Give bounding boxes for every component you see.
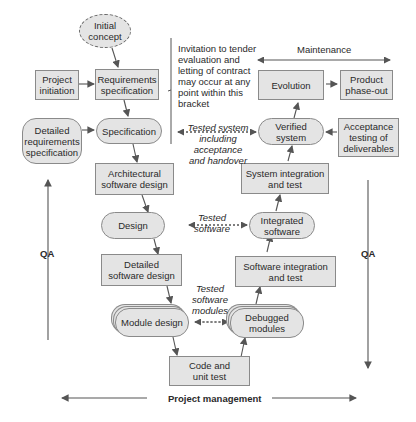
- evolution-label: Evolution: [271, 80, 310, 91]
- code-and-unit-test-label: Code and unit test: [189, 360, 230, 382]
- qa-right-label: QA: [361, 248, 375, 259]
- initial-concept-node: Initial concept: [79, 14, 131, 48]
- system-integration-label: System integration and test: [246, 168, 325, 190]
- project-management-label: Project management: [168, 393, 261, 404]
- qa-left-label: QA: [40, 248, 54, 259]
- product-phase-out-node: Product phase-out: [340, 70, 393, 100]
- verified-system-node: Verified system: [258, 118, 324, 145]
- specification-label: Specification: [102, 126, 156, 137]
- detailed-software-design-node: Detailed software design: [101, 254, 182, 286]
- acceptance-testing-node: Acceptance testing of deliverables: [338, 118, 399, 157]
- project-initiation-node: Project initiation: [35, 70, 79, 100]
- requirements-specification-node: Requirements specification: [95, 69, 159, 100]
- architectural-design-label: Architectural software design: [101, 168, 168, 190]
- architectural-design-node: Architectural software design: [95, 163, 174, 195]
- module-design-label: Module design: [121, 317, 183, 328]
- detailed-requirements-node: Detailed requirements specification: [22, 118, 82, 164]
- detailed-software-design-label: Detailed software design: [108, 259, 175, 281]
- product-phase-out-label: Product phase-out: [345, 74, 387, 96]
- system-integration-node: System integration and test: [241, 163, 329, 194]
- software-integration-label: Software integration and test: [243, 261, 328, 283]
- debugged-modules-label: Debugged modules: [245, 312, 289, 334]
- requirements-specification-label: Requirements specification: [97, 74, 156, 96]
- tested-modules-label: Tested software modules: [190, 283, 230, 316]
- software-integration-node: Software integration and test: [235, 256, 336, 287]
- code-and-unit-test-node: Code and unit test: [169, 356, 250, 386]
- tested-software-label: Tested software: [192, 212, 232, 234]
- tender-note: Invitation to tender evaluation and lett…: [178, 43, 256, 109]
- maintenance-label: Maintenance: [297, 44, 351, 55]
- evolution-node: Evolution: [258, 70, 324, 100]
- initial-concept-label: Initial concept: [88, 20, 121, 42]
- tested-system-label: Tested system including acceptance and h…: [186, 122, 250, 166]
- acceptance-testing-label: Acceptance testing of deliverables: [343, 121, 394, 154]
- integrated-software-node: Integrated software: [249, 212, 315, 239]
- project-initiation-label: Project initiation: [40, 74, 75, 96]
- design-node: Design: [101, 212, 165, 239]
- integrated-software-label: Integrated software: [261, 215, 304, 237]
- design-label: Design: [118, 220, 148, 231]
- module-design-node: Module design: [115, 308, 189, 337]
- debugged-modules-node: Debugged modules: [230, 308, 304, 338]
- verified-system-label: Verified system: [275, 121, 307, 143]
- detailed-requirements-label: Detailed requirements specification: [24, 125, 79, 158]
- specification-node: Specification: [96, 118, 162, 144]
